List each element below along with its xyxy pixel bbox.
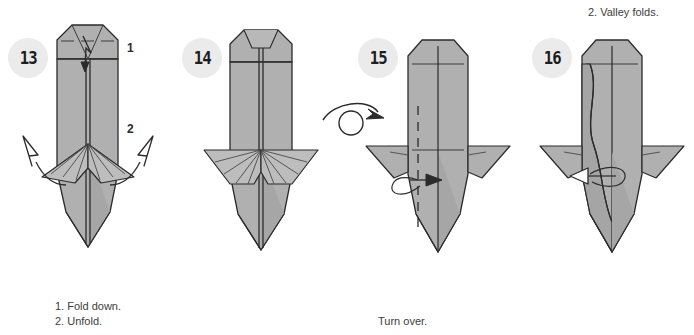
unfold-arrow-left-head-icon-13 [23,136,38,166]
step-panel-14: 14 Turn over. [174,0,348,335]
wing-left-15 [366,146,408,178]
wing-right-16 [642,146,684,178]
step-caption-13-line-2: 2. Unfold. [55,314,121,329]
paper-body-13 [57,25,118,59]
origami-figure-15 [350,22,524,292]
step-caption-13-line-1: 1. Fold down. [55,299,121,314]
origami-figure-14 [174,22,348,292]
origami-instruction-sheet: 2. Valley folds. 13 1 2 [0,0,694,335]
step-panel-16: 16 Unfold. [524,0,694,335]
origami-figure-16 [524,22,694,292]
step-panel-15: 15 Fold the top layers to the centre. [350,0,524,335]
unfold-arrow-right-head-icon-13 [138,136,153,166]
origami-figure-13 [0,22,174,292]
wing-right-15 [468,146,510,178]
step-panel-13: 13 1 2 [0,0,174,335]
step-caption-13: 1. Fold down. 2. Unfold. [55,299,121,329]
